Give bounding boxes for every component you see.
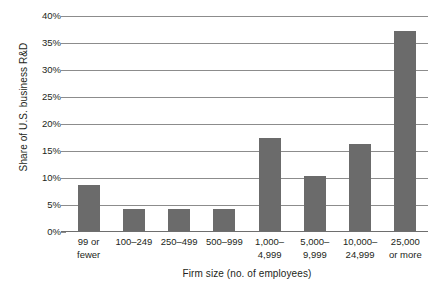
y-tick-mark: [61, 97, 66, 98]
bar: [213, 209, 235, 231]
plot-area: [66, 16, 428, 232]
y-tick-label: 35%: [30, 38, 61, 48]
y-tick-label: 10%: [30, 173, 61, 183]
y-tick-mark: [61, 205, 66, 206]
y-tick-label: 25%: [30, 92, 61, 102]
y-tick-label: 0%: [30, 227, 61, 237]
x-tick-label: 500–999: [198, 236, 250, 249]
bar: [78, 185, 100, 231]
x-tick-label: 5,000– 9,999: [289, 236, 341, 261]
bars-group: [66, 16, 428, 232]
x-axis-title: Firm size (no. of employees): [66, 268, 428, 279]
bar: [123, 209, 145, 231]
y-tick-mark: [61, 16, 66, 17]
y-tick-mark: [61, 151, 66, 152]
x-tick-label: 25,000 or more: [379, 236, 431, 261]
y-tick-mark: [61, 43, 66, 44]
x-tick-label: 100–249: [108, 236, 160, 249]
y-tick-label: 40%: [30, 11, 61, 21]
y-tick-label: 20%: [30, 119, 61, 129]
y-tick-mark: [61, 232, 66, 233]
bar: [394, 31, 416, 231]
bar: [349, 144, 371, 231]
y-axis-tick-labels: 0%5%10%15%20%25%30%35%40%: [30, 16, 61, 232]
bar-chart: Share of U.S. business R&D 0%5%10%15%20%…: [0, 0, 445, 289]
bar: [168, 209, 190, 231]
y-tick-mark: [61, 178, 66, 179]
y-tick-label: 15%: [30, 146, 61, 156]
x-axis-tick-labels: 99 or fewer100–249250–499500–9991,000– 4…: [66, 236, 428, 264]
x-tick-label: 1,000– 4,999: [244, 236, 296, 261]
x-tick-label: 99 or fewer: [63, 236, 115, 261]
bar: [304, 176, 326, 231]
x-axis-baseline: [61, 231, 428, 233]
y-tick-mark: [61, 124, 66, 125]
x-tick-label: 10,000– 24,999: [334, 236, 386, 261]
y-tick-label: 30%: [30, 65, 61, 75]
bar: [259, 138, 281, 231]
y-tick-label: 5%: [30, 200, 61, 210]
y-tick-mark: [61, 70, 66, 71]
x-tick-label: 250–499: [153, 236, 205, 249]
